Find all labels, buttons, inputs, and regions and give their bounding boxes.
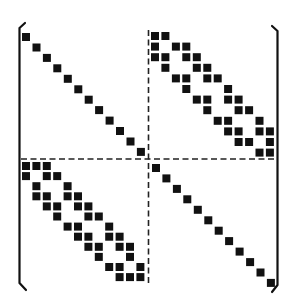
nonzero-cell <box>172 74 180 82</box>
nonzero-cell <box>266 138 274 146</box>
nonzero-cell <box>224 127 232 135</box>
nonzero-cell <box>43 54 51 62</box>
nonzero-cell <box>151 53 159 61</box>
nonzero-cell <box>161 64 169 72</box>
nonzero-cell <box>266 127 274 135</box>
nonzero-cell <box>74 85 82 93</box>
nonzero-cell <box>95 253 103 261</box>
nonzero-cell <box>95 106 103 114</box>
nonzero-cell <box>152 164 160 172</box>
nonzero-cell <box>225 237 233 245</box>
nonzero-cell <box>203 74 211 82</box>
nonzero-cell <box>214 74 222 82</box>
nonzero-cell <box>136 273 144 281</box>
nonzero-cell <box>203 64 211 72</box>
nonzero-cell <box>235 96 243 104</box>
nonzero-cell <box>245 138 253 146</box>
nonzero-cell <box>32 182 40 190</box>
nonzero-cell <box>182 53 190 61</box>
nonzero-cell <box>84 213 92 221</box>
nonzero-cell <box>74 223 82 231</box>
nonzero-cell <box>183 195 191 203</box>
block-matrix-diagram <box>0 0 293 301</box>
nonzero-cell <box>182 43 190 51</box>
nonzero-cell <box>214 117 222 125</box>
nonzero-cell <box>193 64 201 72</box>
nonzero-cell <box>162 174 170 182</box>
nonzero-cell <box>235 127 243 135</box>
nonzero-cell <box>204 216 212 224</box>
nonzero-cell <box>137 148 145 156</box>
nonzero-cell <box>235 106 243 114</box>
nonzero-cell <box>266 149 274 157</box>
nonzero-cell <box>172 43 180 51</box>
nonzero-cell <box>53 202 61 210</box>
block-bottom-right <box>152 164 275 287</box>
nonzero-cell <box>173 185 181 193</box>
nonzero-cell <box>74 202 82 210</box>
nonzero-cell <box>126 253 134 261</box>
nonzero-cell <box>32 192 40 200</box>
nonzero-cell <box>43 192 51 200</box>
nonzero-cell <box>161 53 169 61</box>
nonzero-cell <box>32 162 40 170</box>
nonzero-cell <box>116 127 124 135</box>
nonzero-cell <box>193 96 201 104</box>
nonzero-cell <box>256 149 264 157</box>
nonzero-cell <box>126 273 134 281</box>
nonzero-cell <box>246 258 254 266</box>
nonzero-cell <box>43 162 51 170</box>
nonzero-cell <box>33 44 41 52</box>
nonzero-cell <box>235 138 243 146</box>
nonzero-cell <box>256 127 264 135</box>
nonzero-cell <box>136 263 144 271</box>
nonzero-cell <box>182 74 190 82</box>
nonzero-cell <box>126 243 134 251</box>
nonzero-cell <box>236 248 244 256</box>
nonzero-cell <box>105 233 113 241</box>
nonzero-cell <box>257 269 265 277</box>
nonzero-cell <box>43 172 51 180</box>
block-top-left <box>22 33 145 156</box>
nonzero-cell <box>105 263 113 271</box>
nonzero-cell <box>245 106 253 114</box>
nonzero-cell <box>203 106 211 114</box>
nonzero-cell <box>74 233 82 241</box>
nonzero-cell <box>84 243 92 251</box>
nonzero-cell <box>116 233 124 241</box>
nonzero-cell <box>84 233 92 241</box>
nonzero-cell <box>215 227 223 235</box>
matrix-canvas <box>0 0 293 301</box>
nonzero-cell <box>22 162 30 170</box>
nonzero-cell <box>203 96 211 104</box>
nonzero-cell <box>53 64 61 72</box>
nonzero-cell <box>95 243 103 251</box>
nonzero-cell <box>22 33 30 41</box>
nonzero-cell <box>74 192 82 200</box>
nonzero-cell <box>224 96 232 104</box>
nonzero-cell <box>182 85 190 93</box>
nonzero-cell <box>127 138 135 146</box>
nonzero-cell <box>224 117 232 125</box>
block-bottom-left <box>22 162 144 281</box>
nonzero-cell <box>22 172 30 180</box>
nonzero-cell <box>64 223 72 231</box>
nonzero-cell <box>116 243 124 251</box>
nonzero-cell <box>43 202 51 210</box>
nonzero-cell <box>194 206 202 214</box>
nonzero-cell <box>151 43 159 51</box>
nonzero-cell <box>193 53 201 61</box>
nonzero-cell <box>64 192 72 200</box>
left-bracket <box>20 23 27 290</box>
nonzero-cell <box>105 223 113 231</box>
nonzero-cell <box>53 213 61 221</box>
nonzero-cell <box>116 263 124 271</box>
nonzero-cell <box>84 202 92 210</box>
block-top-right <box>151 32 274 157</box>
nonzero-cell <box>53 172 61 180</box>
nonzero-cell <box>95 213 103 221</box>
nonzero-cell <box>151 32 159 40</box>
nonzero-cell <box>116 273 124 281</box>
nonzero-cell <box>224 85 232 93</box>
nonzero-cell <box>267 279 275 287</box>
